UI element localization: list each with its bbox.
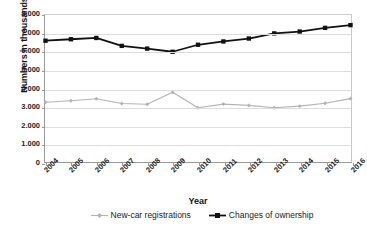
data-point-marker [145, 46, 149, 50]
y-axis-tick-label: 7.000 [6, 29, 40, 37]
y-axis-tick-label: 4.000 [6, 85, 40, 93]
x-axis-tick-labels: 2004200520062007200820092010201120122013… [44, 164, 352, 198]
series-line [45, 92, 350, 108]
data-point-marker [43, 39, 47, 43]
plot-area [44, 14, 352, 163]
data-point-marker [221, 102, 225, 106]
series-line [45, 25, 350, 52]
data-point-marker [221, 39, 225, 43]
y-axis-tick-mark [42, 71, 45, 72]
data-point-marker [120, 102, 124, 106]
series-changes-of-ownership [43, 23, 352, 54]
x-axis-title: Year [44, 196, 352, 206]
gridline [45, 71, 351, 72]
data-point-marker [69, 37, 73, 41]
y-axis-tick-label: 8.000 [6, 10, 40, 18]
legend-item[interactable]: Changes of ownership [209, 210, 314, 220]
chart-legend: New-car registrationsChanges of ownershi… [44, 210, 360, 220]
y-axis-tick-mark [42, 108, 45, 109]
gridline [45, 108, 351, 109]
data-point-marker [348, 23, 352, 27]
data-point-marker [145, 102, 149, 106]
legend-label: New-car registrations [111, 210, 191, 220]
legend-marker-icon [91, 211, 108, 220]
y-axis-tick-mark [42, 127, 45, 128]
data-point-marker [247, 103, 251, 107]
data-point-marker [196, 43, 200, 47]
legend-marker-icon [209, 211, 226, 220]
series-new-car-registrations [44, 90, 353, 110]
y-axis-tick-label: 1.000 [6, 140, 40, 148]
y-axis-tick-mark [42, 15, 45, 16]
data-point-marker [120, 44, 124, 48]
gridline [45, 52, 351, 53]
data-point-marker [44, 100, 48, 104]
y-axis-tick-label: 3.000 [6, 103, 40, 111]
y-axis-tick-labels: 8.0007.0006.0005.0004.0003.0002.0001.000… [6, 0, 40, 232]
data-point-marker [94, 36, 98, 40]
data-point-marker [323, 101, 327, 105]
data-point-marker [323, 26, 327, 30]
data-point-marker [349, 97, 353, 101]
y-axis-tick-label: 5.000 [6, 66, 40, 74]
y-axis-tick-mark [42, 90, 45, 91]
y-axis-tick-mark [42, 52, 45, 53]
legend-item[interactable]: New-car registrations [91, 210, 191, 220]
gridline [45, 127, 351, 128]
gridline [45, 90, 351, 91]
y-axis-tick-mark [42, 145, 45, 146]
series-lines [45, 15, 351, 162]
data-point-marker [69, 99, 73, 103]
y-axis-tick-label: 2.000 [6, 122, 40, 130]
legend-label: Changes of ownership [229, 210, 314, 220]
y-axis-tick-mark [42, 34, 45, 35]
data-point-marker [247, 36, 251, 40]
gridline [45, 34, 351, 35]
y-axis-tick-label: 0 [6, 159, 40, 167]
data-point-marker [94, 97, 98, 101]
gridline [45, 145, 351, 146]
y-axis-tick-label: 6.000 [6, 47, 40, 55]
